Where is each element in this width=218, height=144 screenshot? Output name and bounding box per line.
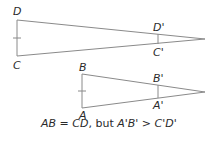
caption-c'd': C'D' <box>155 117 177 130</box>
label-C: C <box>13 60 21 71</box>
caption: AB = CD, but A'B' > C'D' <box>41 118 177 129</box>
label-A-prime: A' <box>153 100 164 111</box>
ray-B <box>82 74 205 92</box>
caption-but: , but <box>88 117 117 130</box>
top-triangle <box>13 20 205 56</box>
bottom-triangle <box>78 74 205 108</box>
ray-C <box>17 39 205 56</box>
label-D-prime: D' <box>153 22 165 33</box>
caption-ab: AB <box>41 117 56 130</box>
ray-A <box>82 92 205 108</box>
ray-D <box>17 20 205 39</box>
label-B: B <box>79 62 87 73</box>
caption-a'b': A'B' <box>117 117 138 130</box>
label-C-prime: C' <box>153 47 164 58</box>
label-B-prime: B' <box>153 73 164 84</box>
caption-eq: = <box>56 117 72 130</box>
label-D: D <box>13 6 21 17</box>
caption-gt: > <box>138 117 154 130</box>
caption-cd: CD <box>72 117 88 130</box>
